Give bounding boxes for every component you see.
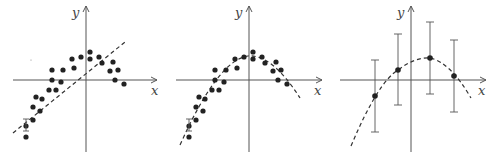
panel-2: y x (176, 5, 322, 152)
y-axis-label: y (234, 5, 243, 20)
y-axis-label: y (71, 5, 80, 20)
panel-1: y x (13, 5, 159, 152)
data-points (186, 49, 289, 139)
y-axis-label: y (396, 5, 405, 20)
data-points (372, 55, 457, 99)
error-bars (371, 22, 458, 132)
x-axis-label: x (478, 83, 486, 98)
data-points (23, 49, 126, 139)
linear-fit-line (13, 42, 125, 133)
x-axis-label: x (314, 83, 322, 98)
figure: y x y x (0, 0, 495, 159)
panel-3: y x (340, 5, 486, 152)
x-axis-label: x (151, 83, 159, 98)
